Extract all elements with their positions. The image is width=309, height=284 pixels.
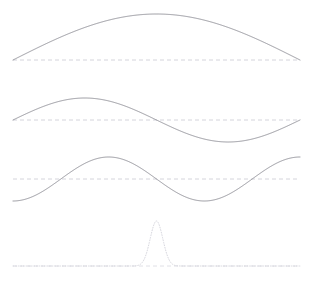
wave-figure [0,0,309,284]
figure-background [0,0,309,284]
wave-canvas [0,0,309,284]
